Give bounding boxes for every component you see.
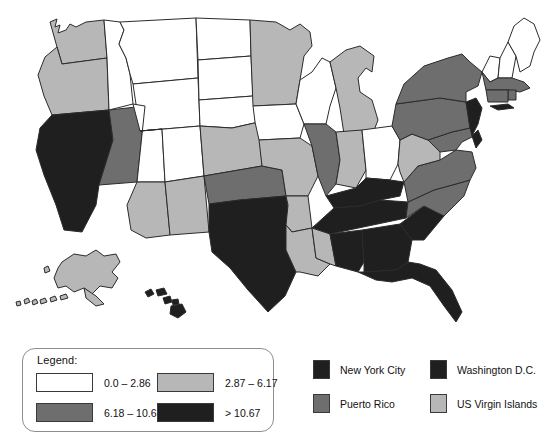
- legend-item-bin-4[interactable]: > 10.67: [157, 403, 260, 422]
- state-CT[interactable]: [486, 90, 508, 102]
- legend-label-washington-dc: Washington D.C.: [457, 364, 536, 376]
- legend-swatch-new-york-city: [313, 360, 330, 379]
- state-NE[interactable]: [199, 96, 259, 128]
- legend-label-us-virgin-islands: US Virgin Islands: [457, 398, 537, 410]
- legend-swatch-bin-3: [36, 403, 93, 422]
- legend-label-bin-1: 0.0 – 2.86: [104, 377, 151, 389]
- long-island: [490, 104, 514, 110]
- state-IN[interactable]: [336, 130, 366, 188]
- legend-item-bin-2[interactable]: 2.87 – 6.17: [157, 373, 278, 392]
- legend-swatch-us-virgin-islands: [430, 394, 447, 413]
- state-NY[interactable]: [396, 54, 482, 104]
- us-map-svg: [0, 0, 558, 332]
- legend-label-new-york-city: New York City: [340, 364, 405, 376]
- state-TX[interactable]: [209, 196, 296, 312]
- state-OH[interactable]: [362, 126, 400, 180]
- legend-item-bin-1[interactable]: 0.0 – 2.86: [36, 373, 151, 392]
- legend-label-bin-4: > 10.67: [225, 407, 260, 419]
- state-SD[interactable]: [198, 56, 253, 100]
- state-RI[interactable]: [508, 90, 516, 100]
- us-choropleth-map: [0, 0, 558, 332]
- state-ND[interactable]: [196, 18, 251, 60]
- legend-item-washington-dc[interactable]: Washington D.C.: [430, 360, 536, 379]
- state-IA[interactable]: [253, 104, 304, 140]
- legend-item-us-virgin-islands[interactable]: US Virgin Islands: [430, 394, 537, 413]
- legend-item-bin-3[interactable]: 6.18 – 10.67: [36, 403, 162, 422]
- legend-item-puerto-rico[interactable]: Puerto Rico: [313, 394, 395, 413]
- choropleth-map-page: Legend: 0.0 – 2.86 2.87 – 6.17 6.18 – 10…: [0, 0, 558, 446]
- legend-swatch-puerto-rico: [313, 394, 330, 413]
- state-AK[interactable]: [16, 250, 120, 306]
- state-AZ[interactable]: [127, 182, 170, 238]
- state-HI[interactable]: [145, 288, 186, 318]
- legend-swatch-bin-1: [36, 373, 93, 392]
- legend-swatch-washington-dc: [430, 360, 447, 379]
- state-NM[interactable]: [165, 176, 209, 235]
- legend-panel: Legend: 0.0 – 2.86 2.87 – 6.17 6.18 – 10…: [22, 348, 274, 432]
- state-CA[interactable]: [36, 110, 113, 232]
- state-FL[interactable]: [358, 262, 462, 322]
- legend-label-bin-2: 2.87 – 6.17: [225, 377, 278, 389]
- legend-item-new-york-city[interactable]: New York City: [313, 360, 405, 379]
- state-AR[interactable]: [286, 196, 312, 232]
- legend-label-puerto-rico: Puerto Rico: [340, 398, 395, 410]
- legend-label-bin-3: 6.18 – 10.67: [104, 407, 162, 419]
- legend-swatch-bin-2: [157, 373, 214, 392]
- state-MT[interactable]: [119, 18, 198, 84]
- legend-swatch-bin-4: [157, 403, 214, 422]
- legend-title: Legend:: [37, 354, 77, 366]
